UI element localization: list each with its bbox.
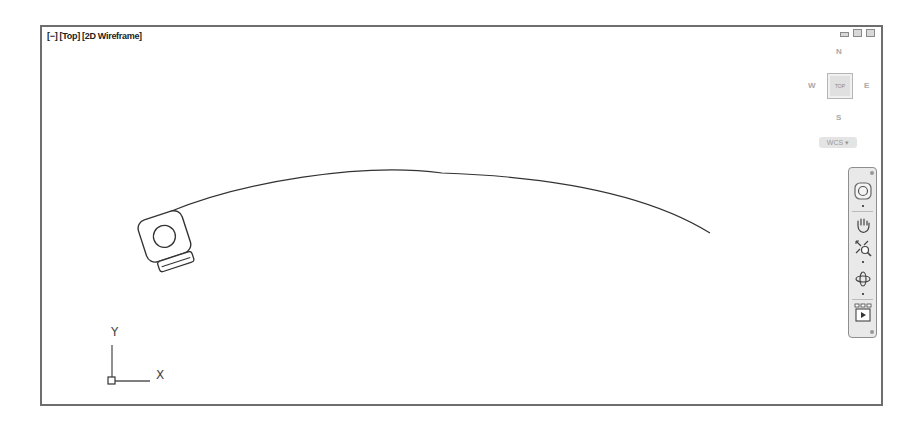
drawing-viewport[interactable]: [−] [Top] [2D Wireframe] Y X N W E S TOP… — [40, 25, 883, 406]
arc-path[interactable] — [169, 170, 710, 233]
viewcube-top-face[interactable]: TOP — [827, 73, 853, 99]
zoom-extents-button[interactable] — [852, 237, 873, 259]
showmotion-icon — [854, 303, 872, 323]
orbit-icon — [854, 270, 872, 288]
viewcube-east[interactable]: E — [864, 81, 869, 90]
viewcube-north[interactable]: N — [836, 47, 842, 56]
dropdown-dot[interactable] — [862, 261, 864, 263]
navigation-bar — [848, 167, 877, 338]
navbar-options-dot[interactable] — [870, 330, 874, 334]
dropdown-dot[interactable] — [862, 293, 864, 295]
navbar-separator — [852, 211, 873, 212]
orbit-button[interactable] — [852, 268, 873, 290]
viewcube-south[interactable]: S — [836, 113, 841, 122]
ucs-icon — [108, 345, 150, 384]
steering-wheel-icon — [854, 182, 872, 200]
navbar-separator — [852, 299, 873, 300]
zoom-extents-icon — [854, 239, 872, 257]
navbar-close-dot[interactable] — [870, 171, 874, 175]
steering-wheel-button[interactable] — [852, 180, 873, 202]
pan-button[interactable] — [852, 214, 873, 236]
ucs-menu-button[interactable]: WCS ▾ — [819, 137, 857, 148]
showmotion-button[interactable] — [852, 302, 873, 324]
dropdown-dot[interactable] — [862, 205, 864, 207]
viewcube-west[interactable]: W — [808, 81, 816, 90]
ucs-x-label: X — [156, 368, 164, 382]
ucs-y-label: Y — [111, 325, 118, 339]
camera-glyph[interactable] — [136, 208, 197, 275]
pan-icon — [854, 216, 872, 234]
drawing-canvas[interactable] — [42, 27, 881, 404]
viewcube[interactable]: N W E S TOP WCS ▾ — [804, 45, 874, 155]
